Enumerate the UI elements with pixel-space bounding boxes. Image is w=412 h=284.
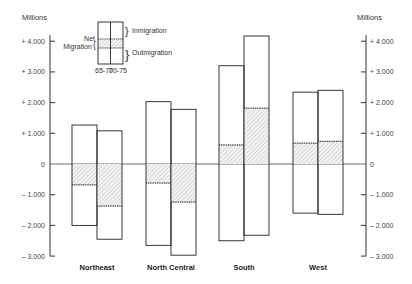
chart-canvas: MillionsMillions+ 4.000+ 4.000+ 3.000+ 3… (0, 0, 412, 284)
legend-outmigration-label: Outmigration (132, 49, 172, 57)
left-tick-label: + 4.000 (21, 38, 45, 45)
net-migration-area (219, 145, 244, 164)
right-tick-label: – 3.000 (370, 253, 393, 260)
left-tick-label: + 1.000 (21, 130, 45, 137)
net-migration-area (72, 164, 97, 185)
left-tick-label: – 3.000 (22, 253, 45, 260)
left-tick-label: – 2.000 (22, 222, 45, 229)
category-label: West (309, 263, 327, 272)
legend-net-label: Migration (63, 43, 92, 51)
right-tick-label: – 1.000 (370, 191, 393, 198)
category-label: South (233, 263, 255, 272)
legend-inmigration-label: Inmigration (132, 27, 167, 35)
legend-period-label: 70-75 (109, 67, 127, 74)
right-tick-label: – 2.000 (370, 222, 393, 229)
category-label: North Central (147, 263, 195, 272)
right-tick-label: + 1.000 (370, 130, 394, 137)
right-tick-label: + 3.000 (370, 68, 394, 75)
left-axis-title: Millions (22, 13, 47, 22)
category-group-northeast: Northeast (72, 125, 122, 272)
net-migration-area (318, 141, 343, 164)
left-tick-label: + 3.000 (21, 68, 45, 75)
category-group-south: South (219, 36, 269, 272)
net-migration-area (146, 164, 171, 183)
brace-icon: { (93, 40, 96, 50)
net-migration-area (244, 108, 269, 164)
right-tick-label: + 2.000 (370, 99, 394, 106)
migration-chart: MillionsMillions+ 4.000+ 4.000+ 3.000+ 3… (0, 0, 412, 284)
brace-icon: } (125, 25, 129, 37)
net-migration-area (97, 164, 122, 206)
left-tick-label: 0 (41, 161, 45, 168)
legend: NetMigration{}}InmigrationOutmigration65… (63, 22, 172, 74)
category-group-west: West (293, 90, 343, 272)
category-group-north-central: North Central (146, 102, 196, 272)
net-migration-area (293, 143, 318, 164)
brace-icon: } (125, 47, 130, 62)
left-tick-label: + 2.000 (21, 99, 45, 106)
right-tick-label: + 4.000 (370, 38, 394, 45)
right-tick-label: 0 (370, 161, 374, 168)
net-migration-area (171, 164, 196, 202)
right-axis-title: Millions (357, 13, 382, 22)
category-label: Northeast (79, 263, 115, 272)
left-tick-label: – 1.000 (22, 191, 45, 198)
